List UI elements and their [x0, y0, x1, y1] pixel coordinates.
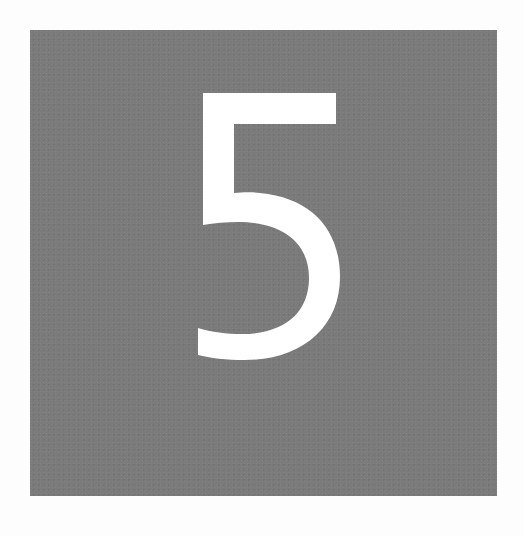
page-canvas: 5 — [0, 0, 524, 536]
digit-five-glyph — [30, 30, 497, 496]
number-tile: 5 — [30, 30, 497, 496]
